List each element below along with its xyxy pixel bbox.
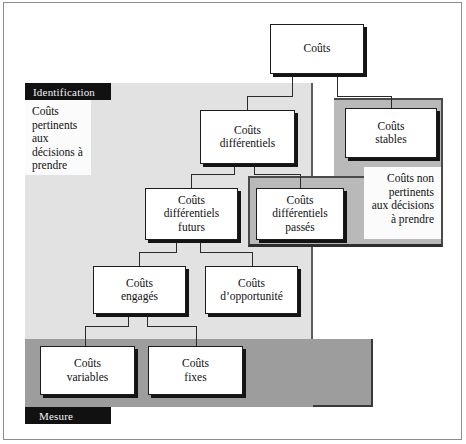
node-couts-fixes[interactable]: Coûts fixes xyxy=(148,346,243,395)
node-label-line: Coûts xyxy=(164,194,219,207)
caption-line: Coûts xyxy=(387,172,414,184)
edge-couts-to-stables-v xyxy=(391,96,392,108)
edge-engages-to-variables-v xyxy=(85,326,86,346)
edge-engages-stem-left xyxy=(128,314,129,326)
edge-couts-stem-left xyxy=(292,74,293,96)
node-label-line: fixes xyxy=(182,371,209,384)
node-couts-stables[interactable]: Coûts stables xyxy=(345,108,437,158)
node-label-line: Coûts xyxy=(304,42,331,55)
node-couts-engages[interactable]: Coûts engagés xyxy=(93,266,186,314)
edge-diff-to-futurs-v xyxy=(191,174,192,188)
edge-futurs-to-engages-v xyxy=(139,252,140,266)
edge-diff-to-passes-h xyxy=(254,174,300,175)
edge-diff-to-futurs-h xyxy=(191,174,235,175)
node-couts-variables[interactable]: Coûts variables xyxy=(40,346,135,395)
diagram-canvas: Identification Mesure Coûts pertinents a… xyxy=(0,0,466,444)
node-label-line: différentiels xyxy=(272,207,327,220)
caption-line: aux xyxy=(372,199,389,211)
edge-diff-stem-right xyxy=(254,164,255,174)
edge-engages-to-fixes-h xyxy=(147,326,196,327)
edge-diff-to-passes-v xyxy=(300,174,301,188)
node-label-line: différentiels xyxy=(164,207,219,220)
node-label-line: Coûts xyxy=(220,124,275,137)
edge-couts-stem-right xyxy=(337,74,338,96)
edge-engages-to-fixes-v xyxy=(196,326,197,346)
node-label-line: d’opportunité xyxy=(220,290,283,303)
node-label-line: passés xyxy=(272,221,327,234)
edge-couts-to-differentiels-h xyxy=(247,96,293,97)
node-label-line: Coûts xyxy=(375,120,406,133)
edge-futurs-stem-left xyxy=(176,240,177,252)
node-couts-differentiels[interactable]: Coûts différentiels xyxy=(200,110,295,164)
node-label-line: Coûts xyxy=(182,357,209,370)
caption-line: décisions xyxy=(391,199,434,211)
caption-line: Coûts xyxy=(32,105,59,117)
edge-couts-to-stables-h xyxy=(337,96,391,97)
node-couts-opportunite[interactable]: Coûts d’opportunité xyxy=(205,266,298,314)
caption-line: aux xyxy=(32,132,49,144)
caption-line: pertinents xyxy=(32,119,77,131)
edge-futurs-to-opportunite-h xyxy=(200,252,252,253)
node-label-line: Coûts xyxy=(67,357,109,370)
edge-engages-to-variables-h xyxy=(85,326,129,327)
edge-futurs-stem-right xyxy=(200,240,201,252)
node-label-line: Coûts xyxy=(272,194,327,207)
node-label-line: stables xyxy=(375,133,406,146)
zone-label-mesure: Mesure xyxy=(25,407,111,424)
edge-diff-stem-left xyxy=(234,164,235,174)
node-label-line: Coûts xyxy=(220,277,283,290)
edge-engages-stem-right xyxy=(147,314,148,326)
edge-futurs-to-engages-h xyxy=(139,252,177,253)
caption-line: à prendre xyxy=(391,213,434,225)
caption-line: décisions xyxy=(32,146,75,158)
node-label-line: variables xyxy=(67,371,109,384)
caption-couts-pertinents: Coûts pertinents aux décisions à prendre xyxy=(25,100,91,175)
node-label-line: différentiels xyxy=(220,137,275,150)
node-label-line: Coûts xyxy=(121,277,158,290)
node-label-line: engagés xyxy=(121,290,158,303)
node-couts[interactable]: Coûts xyxy=(270,24,364,74)
edge-couts-to-differentiels-v xyxy=(247,96,248,110)
node-couts-differentiels-passes[interactable]: Coûts différentiels passés xyxy=(256,188,344,240)
caption-couts-non-pertinents: Coûts non pertinents aux décisions à pre… xyxy=(364,167,441,239)
node-couts-differentiels-futurs[interactable]: Coûts différentiels futurs xyxy=(145,188,238,240)
zone-mesure-band-right xyxy=(313,339,373,407)
edge-futurs-to-opportunite-v xyxy=(252,252,253,266)
zone-label-identification: Identification xyxy=(25,83,111,100)
node-label-line: futurs xyxy=(164,221,219,234)
